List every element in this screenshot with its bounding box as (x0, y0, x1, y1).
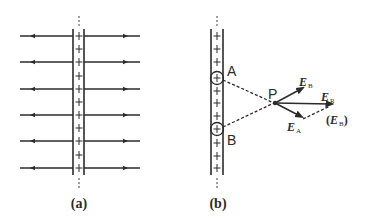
vector-eb-arrow (275, 89, 301, 103)
continuation-dots-top (78, 16, 80, 26)
label-a: A (227, 63, 237, 79)
caption-b: (b) (209, 196, 226, 212)
continuation-dots-bottom (216, 178, 218, 188)
panel-a: (a) (20, 16, 140, 212)
label-ea: EA (286, 120, 301, 135)
label-b: B (227, 132, 236, 148)
dashed-line-a-to-p (223, 80, 274, 103)
figure-canvas: (a) A B (0, 0, 368, 221)
label-er: ER (320, 90, 335, 105)
caption-a: (a) (71, 196, 88, 212)
panel-b: A B P EB ER EA (EB) (b) (209, 16, 347, 212)
dashed-line-b-to-p (223, 103, 274, 127)
plus-charges-a (76, 32, 83, 172)
continuation-dots-bottom (78, 178, 80, 188)
continuation-dots-top (216, 16, 218, 26)
label-p: P (268, 86, 277, 102)
label-eb-translated: (EB) (326, 113, 348, 128)
plus-charges-b (214, 32, 221, 172)
vector-ea-arrow (275, 103, 300, 116)
label-eb: EB (298, 75, 313, 90)
